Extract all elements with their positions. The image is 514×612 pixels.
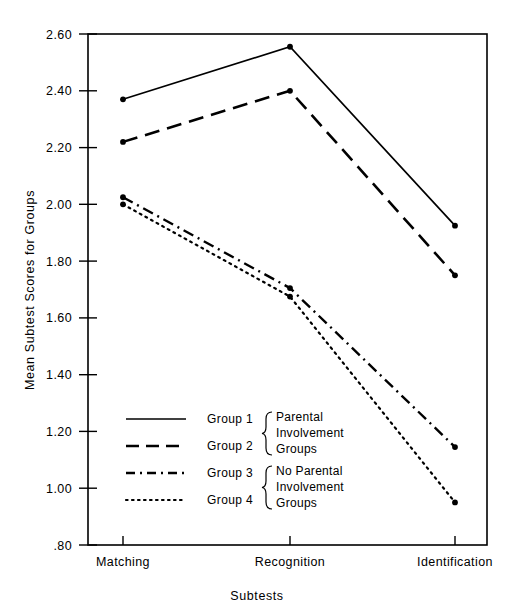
y-tick-label: 1.60: [46, 311, 72, 325]
data-point: [120, 194, 126, 200]
line-chart: 2.60 2.40 2.20 2.00 1.80 1.60 1.40 1.20 …: [0, 0, 514, 612]
y-tick-label: 2.40: [46, 84, 72, 98]
brace-line-3: Groups: [276, 442, 317, 456]
y-tick-label: 2.20: [46, 141, 72, 155]
y-axis-tick-dashes: [79, 34, 88, 545]
data-point: [120, 96, 126, 102]
data-point: [452, 223, 458, 229]
x-axis-title: Subtests: [230, 589, 283, 603]
legend-brace-no-parental: [262, 466, 272, 509]
data-point: [287, 88, 293, 94]
x-axis-tick-labels: Matching Recognition Identification: [96, 555, 493, 569]
legend-label-group-1: Group 1: [207, 412, 253, 426]
y-axis-ticks: [88, 34, 97, 545]
data-point: [452, 444, 458, 450]
data-point: [287, 294, 293, 300]
x-tick-label-matching: Matching: [96, 555, 150, 569]
y-tick-label: 1.40: [46, 368, 72, 382]
series-line-1: [123, 47, 455, 226]
y-axis-tick-labels: 2.60 2.40 2.20 2.00 1.80 1.60 1.40 1.20 …: [46, 28, 72, 553]
data-point: [120, 201, 126, 207]
figure-container: 2.60 2.40 2.20 2.00 1.80 1.60 1.40 1.20 …: [0, 0, 514, 612]
y-tick-label: 1.20: [46, 425, 72, 439]
data-point: [452, 272, 458, 278]
brace-line-4: No Parental: [276, 464, 343, 478]
legend-brace-parental: [262, 412, 272, 455]
legend-label-group-3: Group 3: [207, 466, 253, 480]
x-axis-ticks: [123, 536, 455, 545]
legend: Group 1 Group 2 Group 3 Group 4 Parental…: [126, 410, 344, 510]
data-point: [287, 44, 293, 50]
brace-line-5: Involvement: [276, 480, 344, 494]
brace-line-2: Involvement: [276, 426, 344, 440]
y-tick-label: 2.00: [46, 198, 72, 212]
y-tick-label: .80: [53, 539, 72, 553]
y-axis-title: Mean Subtest Scores for Groups: [23, 190, 37, 390]
y-tick-label: 1.00: [46, 482, 72, 496]
y-tick-label: 2.60: [46, 28, 72, 42]
series-line-4: [123, 204, 455, 502]
data-point: [120, 139, 126, 145]
legend-label-group-2: Group 2: [207, 439, 253, 453]
data-point: [287, 285, 293, 291]
brace-line-6: Groups: [276, 496, 317, 510]
brace-line-1: Parental: [276, 410, 323, 424]
legend-label-group-4: Group 4: [207, 493, 253, 507]
y-tick-label: 1.80: [46, 255, 72, 269]
x-tick-label-recognition: Recognition: [255, 555, 325, 569]
data-point: [452, 500, 458, 506]
series-line-2: [123, 91, 455, 276]
x-tick-label-identification: Identification: [417, 555, 493, 569]
